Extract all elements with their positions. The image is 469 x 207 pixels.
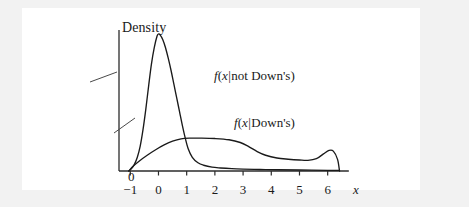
- curve-not-downs: [129, 34, 339, 171]
- annotation-close-paren: ): [291, 115, 295, 130]
- x-tick-label: 6: [318, 182, 338, 198]
- y-axis-title: Density: [122, 20, 166, 36]
- density-plot-svg: [22, 8, 420, 190]
- leader-line-not-downs: [90, 72, 117, 82]
- x-tick-label: 5: [289, 182, 309, 198]
- x-axis-ticks: [130, 171, 327, 176]
- x-tick-label: 0: [148, 182, 168, 198]
- annotation-condition-text: Down's: [251, 115, 290, 130]
- x-tick-label: 2: [205, 182, 225, 198]
- annotation-condition-text: not Down's: [231, 68, 290, 83]
- annotation-close-paren: ): [290, 68, 294, 83]
- curve-annotation-downs: f(x|Down's): [234, 115, 295, 131]
- curve-downs: [129, 138, 340, 171]
- leader-line-downs: [114, 118, 135, 133]
- x-tick-label: −1: [120, 182, 140, 198]
- curve-annotation-not-downs: f(x|not Down's): [214, 68, 295, 84]
- annotation-x-symbol: x: [242, 115, 248, 130]
- x-tick-label: 1: [177, 182, 197, 198]
- chart-panel: Density 0 x −10123456 f(x|not Down's) f(…: [22, 8, 420, 190]
- x-tick-label: 4: [261, 182, 281, 198]
- x-tick-label: 3: [233, 182, 253, 198]
- annotation-x-symbol: x: [222, 68, 228, 83]
- figure-root: Density 0 x −10123456 f(x|not Down's) f(…: [0, 0, 469, 207]
- x-axis-label: x: [353, 182, 359, 198]
